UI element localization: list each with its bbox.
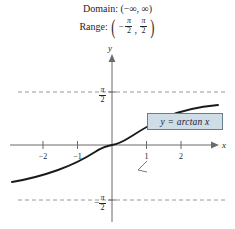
domain-value: (−∞, ∞) [120,3,152,14]
y-tick-lower-negative-sign: − [94,198,99,207]
x-tick-label-pos2: 2 [179,152,183,161]
range-upper-bound-fraction: π 2 [140,17,147,35]
y-axis-label: y [107,44,112,53]
range-upper-denominator: 2 [140,27,146,35]
y-tick-label-upper: π 2 [99,86,106,104]
range-lower-bound-fraction: π 2 [125,17,132,35]
figure-arctan-graph: Domain: (−∞, ∞) Range: ( − π 2 , π 2 ) [0,0,235,229]
plot-area: −2 −1 1 2 x y π 2 − π 2 [0,44,235,229]
y-tick-lower-numerator: π [100,194,104,202]
range-lower-numerator: π [126,17,132,25]
range-comma: , [134,23,137,36]
domain-annotation: Domain: (−∞, ∞) [0,2,235,15]
y-tick-label-lower: − π 2 [99,194,106,212]
x-tick-label-pos1: 1 [145,152,149,161]
range-annotation: Range: ( − π 2 , π 2 ) [0,17,235,35]
x-tick-label-neg2: −2 [39,152,48,161]
x-axis-arrowhead [211,142,219,149]
domain-label: Domain: [83,3,118,14]
y-tick-upper-denominator: 2 [101,96,105,104]
function-callout-text: y = arctan x [161,117,210,127]
function-callout-label: y = arctan x [147,113,223,130]
y-tick-lower-denominator: 2 [101,204,105,212]
range-lower-denominator: 2 [126,27,132,35]
callout-leader-line [138,161,147,172]
figure-header: Domain: (−∞, ∞) Range: ( − π 2 , π 2 ) [0,2,235,35]
coordinate-plane: −2 −1 1 2 x y [0,44,235,229]
x-axis-label: x [221,140,226,150]
range-label: Range: [79,20,107,33]
y-axis-arrowhead [109,54,116,62]
range-close-paren: ) [150,22,154,32]
range-open-paren: ( [111,22,115,32]
range-upper-numerator: π [140,17,146,25]
y-tick-upper-numerator: π [100,86,104,94]
range-negative-sign: − [118,20,123,33]
